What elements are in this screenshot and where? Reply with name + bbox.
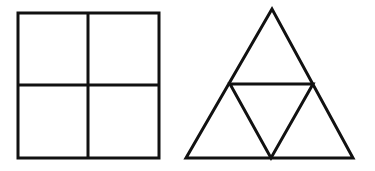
geometry-diagram [0,0,375,171]
divided-square [18,13,159,158]
divided-triangle [186,9,353,158]
triangle-inner-inverted [230,84,313,158]
